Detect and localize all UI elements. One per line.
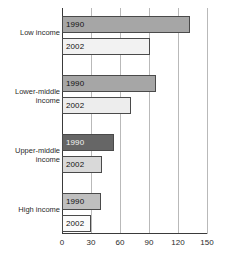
- x-tick-0: 0: [60, 238, 64, 247]
- category-label-lower-middle-income: Lower-middle income: [0, 87, 60, 105]
- category-label-low-income: Low income: [0, 28, 60, 37]
- x-tick-30: 30: [87, 238, 96, 247]
- x-tick-90: 90: [145, 238, 154, 247]
- bar-label-lower-middle-income-1990: 1990: [66, 75, 84, 92]
- x-tick-150: 150: [200, 238, 213, 247]
- bar-label-high-income-1990: 1990: [66, 193, 84, 210]
- bar-label-lower-middle-income-2002: 2002: [66, 97, 84, 114]
- gridline-150: [207, 8, 208, 234]
- x-tick-60: 60: [116, 238, 125, 247]
- bar-chart: Low income Lower-middle income Upper-mid…: [0, 0, 226, 259]
- category-label-high-income: High income: [0, 205, 60, 214]
- category-label-upper-middle-income: Upper-middle income: [0, 146, 60, 164]
- x-tick-120: 120: [171, 238, 184, 247]
- bar-label-low-income-2002: 2002: [66, 38, 84, 55]
- caption-text: [14, 252, 220, 258]
- bars-layer: 1990 2002 1990 2002: [62, 8, 207, 234]
- bar-label-upper-middle-income-1990: 1990: [66, 134, 84, 151]
- bar-label-low-income-1990: 1990: [66, 16, 84, 33]
- bar-label-upper-middle-income-2002: 2002: [66, 156, 84, 173]
- plot-area: 1990 2002 1990 2002: [62, 8, 207, 234]
- bar-label-high-income-2002: 2002: [66, 215, 84, 232]
